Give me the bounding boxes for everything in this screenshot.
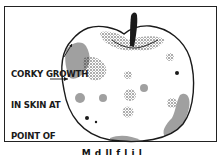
- callout-line-2: IN SKIN AT: [11, 100, 88, 110]
- figure-caption: M d ll f l i l: [0, 148, 224, 155]
- callout-label: CORKY GROWTH IN SKIN AT POINT OF ATTACK: [11, 49, 88, 155]
- callout-line-3: POINT OF: [11, 131, 88, 141]
- callout-line-1: CORKY GROWTH: [11, 69, 88, 79]
